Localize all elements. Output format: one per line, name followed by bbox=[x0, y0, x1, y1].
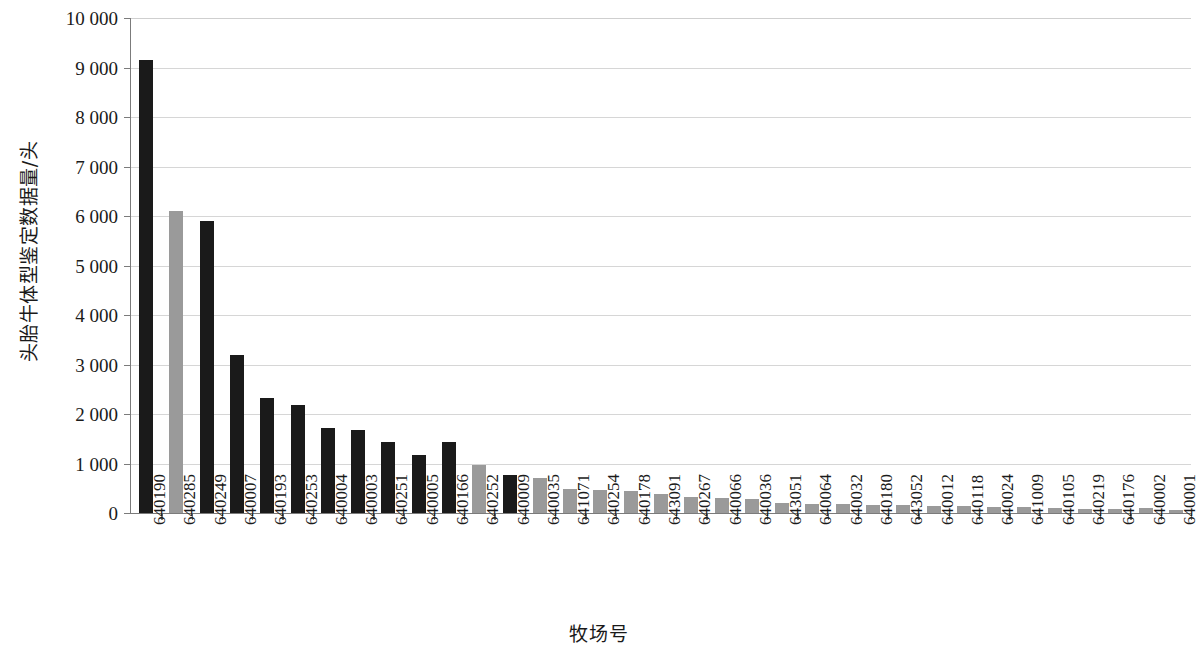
x-axis-tick-label: 640180 bbox=[878, 429, 895, 525]
y-axis-tick-label: 9 000 bbox=[0, 59, 118, 78]
bar-chart: 头胎牛体型鉴定数据量/头 10 0009 0008 0007 0006 0005… bbox=[0, 0, 1197, 649]
y-axis-tick-mark bbox=[124, 464, 131, 465]
x-axis-tick-label: 641071 bbox=[575, 429, 592, 525]
y-axis-tick-label: 10 000 bbox=[0, 9, 118, 28]
x-axis-tick-label: 640267 bbox=[696, 429, 713, 525]
x-axis-tick-label: 640012 bbox=[939, 429, 956, 525]
y-axis-tick-label: 2 000 bbox=[0, 405, 118, 424]
x-axis-tick-label: 640064 bbox=[817, 429, 834, 525]
x-axis-tick-label: 643091 bbox=[666, 429, 683, 525]
y-axis-tick-label: 6 000 bbox=[0, 207, 118, 226]
y-axis-tick-label: 4 000 bbox=[0, 306, 118, 325]
y-axis-tick-label: 7 000 bbox=[0, 158, 118, 177]
x-axis-tick-label: 640249 bbox=[212, 429, 229, 525]
x-axis-tick-label: 640166 bbox=[454, 429, 471, 525]
y-axis-tick-mark bbox=[124, 414, 131, 415]
x-axis-tick-label: 640252 bbox=[484, 429, 501, 525]
y-axis-tick-mark bbox=[124, 68, 131, 69]
x-axis-title: 牧场号 bbox=[0, 619, 1197, 646]
x-axis-tick-label: 640035 bbox=[545, 429, 562, 525]
x-axis-tick-label: 640105 bbox=[1060, 429, 1077, 525]
x-axis-tick-label: 640032 bbox=[848, 429, 865, 525]
y-axis-tick-label-group: 10 0009 0008 0007 0006 0005 0004 0003 00… bbox=[0, 0, 118, 530]
x-axis-tick-label: 641009 bbox=[1029, 429, 1046, 525]
y-axis-tick-label: 8 000 bbox=[0, 108, 118, 127]
x-axis-tick-label: 640066 bbox=[727, 429, 744, 525]
x-axis-tick-label: 640024 bbox=[999, 429, 1016, 525]
x-axis-tick-label: 640285 bbox=[181, 429, 198, 525]
x-axis-tick-label: 640007 bbox=[242, 429, 259, 525]
y-axis-tick-label: 5 000 bbox=[0, 257, 118, 276]
y-axis-tick-mark bbox=[124, 117, 131, 118]
y-axis-tick-mark bbox=[124, 167, 131, 168]
y-axis-tick-mark bbox=[124, 216, 131, 217]
y-axis-tick-mark bbox=[124, 315, 131, 316]
x-axis-tick-label: 640219 bbox=[1090, 429, 1107, 525]
x-axis-tick-label: 643052 bbox=[908, 429, 925, 525]
x-axis-tick-label: 640178 bbox=[636, 429, 653, 525]
x-axis-tick-label: 640002 bbox=[1151, 429, 1168, 525]
x-axis-tick-label: 640118 bbox=[969, 429, 986, 525]
y-axis-tick-mark bbox=[124, 18, 131, 19]
y-axis-tick-mark bbox=[124, 365, 131, 366]
x-axis-tick-label: 640036 bbox=[757, 429, 774, 525]
x-axis-tick-label: 640009 bbox=[515, 429, 532, 525]
x-axis-tick-label: 640190 bbox=[151, 429, 168, 525]
y-axis-tick-mark bbox=[124, 266, 131, 267]
x-axis-tick-label: 640004 bbox=[333, 429, 350, 525]
y-axis-tick-label: 1 000 bbox=[0, 455, 118, 474]
y-axis-tick-label: 0 bbox=[0, 504, 118, 523]
x-axis-tick-label: 640001 bbox=[1181, 429, 1197, 525]
x-axis-tick-label: 643051 bbox=[787, 429, 804, 525]
y-axis-tick-label: 3 000 bbox=[0, 356, 118, 375]
x-axis-tick-label: 640005 bbox=[424, 429, 441, 525]
x-axis-tick-label: 640003 bbox=[363, 429, 380, 525]
x-axis-tick-label: 640254 bbox=[605, 429, 622, 525]
x-axis-tick-label: 640176 bbox=[1120, 429, 1137, 525]
x-axis-tick-label: 640193 bbox=[272, 429, 289, 525]
x-axis-tick-label: 640251 bbox=[393, 429, 410, 525]
x-axis-tick-label: 640253 bbox=[303, 429, 320, 525]
x-axis-tick-label-group: 6401906402856402496400076401936402536400… bbox=[130, 513, 1190, 613]
